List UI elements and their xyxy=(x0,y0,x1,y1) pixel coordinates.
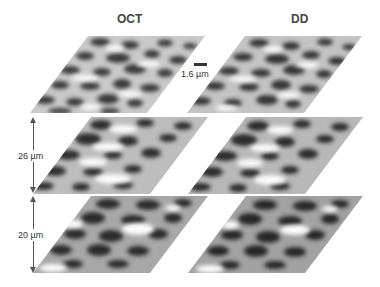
panel-oct-row3 xyxy=(33,196,208,273)
panel-oct-row2 xyxy=(33,117,208,194)
panel-dd-row3 xyxy=(188,196,363,273)
panel-dd-row2 xyxy=(188,117,363,194)
column-title-oct: OCT xyxy=(117,12,142,26)
depth-label-26um: 26 µm xyxy=(18,150,43,162)
arrow-down-icon xyxy=(30,187,36,193)
arrow-down-icon xyxy=(30,267,36,273)
depth-label-20um: 20 µm xyxy=(18,229,43,241)
column-title-dd: DD xyxy=(291,12,308,26)
panel-dd-row1 xyxy=(187,36,362,113)
scale-bar-label: 1.6 µm xyxy=(181,69,209,79)
scale-bar xyxy=(194,63,207,66)
panel-oct-row1 xyxy=(30,36,205,113)
